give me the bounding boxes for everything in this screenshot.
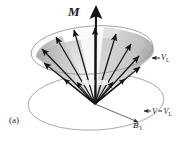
rf-field-label: B1 (133, 122, 142, 131)
panel-label-a: (a) (9, 116, 19, 125)
larmor-volume-subscript-2: L (168, 111, 172, 117)
larmor-volume-label: VL (161, 54, 169, 63)
rf-field-radius-arrow-group (95, 104, 138, 122)
magnetization-vector-group (96, 8, 97, 104)
rf-field-radius-arrow (95, 104, 138, 122)
magnetization-cone-diagram (0, 0, 191, 142)
figure-panel-a: M VL V=VL B1 (a) (0, 0, 191, 142)
rf-field-subscript: 1 (139, 125, 143, 131)
magnetization-vector-M (96, 8, 97, 104)
volume-equality-label: V=VL (152, 108, 172, 117)
larmor-volume-subscript: L (166, 57, 170, 63)
label-leader-arrows (144, 58, 160, 111)
magnetization-vector-label: M (68, 5, 80, 18)
